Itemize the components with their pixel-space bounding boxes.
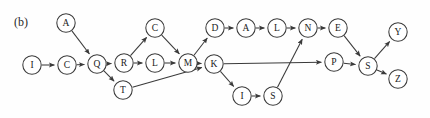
directed-graph-canvas: ACDALNEYICQRLMKPSTISZ (b)	[0, 0, 430, 118]
graph-edge	[374, 41, 389, 58]
graph-edge	[162, 35, 180, 54]
graph-edge	[220, 71, 233, 86]
node-label: A	[243, 23, 250, 33]
graph-edge	[194, 38, 207, 55]
node-label: S	[270, 91, 275, 101]
graph-edge	[224, 62, 322, 64]
graph-edge	[344, 63, 356, 64]
node-label: L	[274, 23, 280, 33]
graph-node[interactable]: C	[146, 19, 164, 37]
node-label: I	[30, 60, 33, 70]
panel-label: (b)	[14, 15, 28, 29]
graph-node[interactable]: I	[233, 87, 251, 105]
node-label: Y	[395, 27, 402, 37]
graph-node[interactable]: R	[115, 54, 133, 72]
graph-node[interactable]: T	[114, 81, 132, 99]
graph-node[interactable]: D	[206, 19, 224, 37]
graph-node[interactable]: P	[325, 53, 343, 71]
graph-edge	[72, 31, 89, 54]
node-label: P	[331, 57, 336, 67]
node-label: I	[240, 91, 243, 101]
graph-edge	[344, 36, 360, 56]
graph-node[interactable]: A	[57, 14, 75, 32]
graph-edge	[104, 71, 114, 81]
node-label: Z	[395, 74, 401, 84]
node-label: M	[184, 58, 193, 68]
node-label: R	[121, 58, 128, 68]
node-label: Q	[94, 59, 101, 69]
graph-node[interactable]: K	[205, 55, 223, 73]
graph-edge	[131, 37, 147, 55]
graph-node[interactable]: S	[264, 87, 282, 105]
node-label: K	[211, 59, 218, 69]
node-layer: ACDALNEYICQRLMKPSTISZ	[23, 14, 407, 105]
node-label: N	[305, 23, 312, 33]
graph-node[interactable]: M	[179, 54, 197, 72]
graph-edge	[377, 70, 386, 74]
node-label: T	[120, 85, 126, 95]
node-label: A	[63, 18, 70, 28]
node-label: C	[152, 23, 158, 33]
graph-node[interactable]: L	[146, 54, 164, 72]
graph-node[interactable]: Y	[389, 23, 407, 41]
graph-node[interactable]: E	[329, 19, 347, 37]
graph-node[interactable]: A	[237, 19, 255, 37]
node-label: E	[335, 23, 341, 33]
graph-node[interactable]: L	[268, 19, 286, 37]
graph-node[interactable]: C	[58, 56, 76, 74]
node-label: C	[64, 60, 70, 70]
node-label: L	[152, 58, 158, 68]
node-label: S	[365, 61, 370, 71]
figure-panel: ACDALNEYICQRLMKPSTISZ (b)	[0, 0, 430, 118]
graph-node[interactable]: Z	[389, 70, 407, 88]
graph-node[interactable]: N	[299, 19, 317, 37]
graph-node[interactable]: I	[23, 56, 41, 74]
graph-node[interactable]: Q	[88, 55, 106, 73]
node-label: D	[212, 23, 219, 33]
graph-node[interactable]: S	[359, 57, 377, 75]
